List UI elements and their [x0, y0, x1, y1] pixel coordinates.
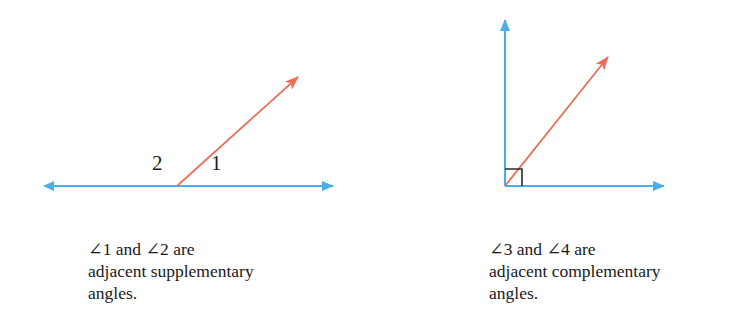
caption-line-2: adjacent supplementary [88, 260, 254, 282]
caption-line-2: adjacent complementary [489, 260, 661, 282]
angle-label-2: 2 [152, 153, 163, 174]
angle-label-1: 1 [211, 153, 222, 174]
red-ray [505, 57, 608, 186]
complementary-angle-drawing [400, 0, 735, 230]
caption-complementary: ∠3 and ∠4 are adjacent complementary ang… [489, 238, 661, 304]
supplementary-angle-drawing [0, 0, 400, 230]
adjacent-supplementary-angles-figure: 2 1 ∠1 and ∠2 are adjacent supplementary… [0, 0, 400, 336]
geometry-figure-page: 2 1 ∠1 and ∠2 are adjacent supplementary… [0, 0, 735, 336]
caption-supplementary: ∠1 and ∠2 are adjacent supplementary ang… [88, 238, 254, 304]
caption-line-1: ∠3 and ∠4 are [489, 238, 661, 260]
caption-line-3: angles. [88, 282, 254, 304]
red-ray [177, 77, 298, 186]
caption-line-1: ∠1 and ∠2 are [88, 238, 254, 260]
caption-line-3: angles. [489, 282, 661, 304]
adjacent-complementary-angles-figure: 4 3 ∠3 and ∠4 are adjacent complementary… [400, 0, 735, 336]
